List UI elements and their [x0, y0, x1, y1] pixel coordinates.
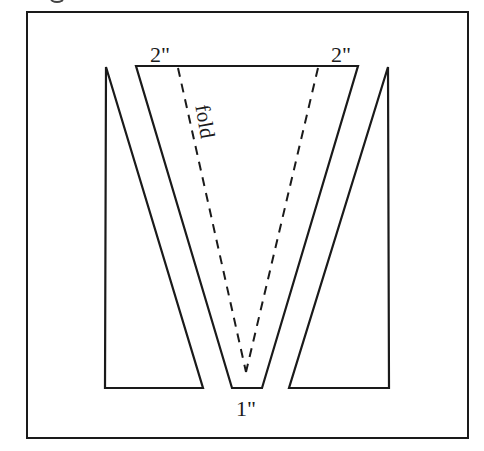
right-piece: [289, 67, 389, 388]
fold-label: fold: [191, 103, 218, 140]
top-left-dimension-label: 2": [150, 44, 170, 66]
center-trapezoid: [136, 66, 358, 388]
pattern-diagram: [0, 0, 484, 451]
top-right-dimension-label: 2": [331, 44, 351, 66]
bottom-dimension-label: 1": [236, 398, 256, 420]
